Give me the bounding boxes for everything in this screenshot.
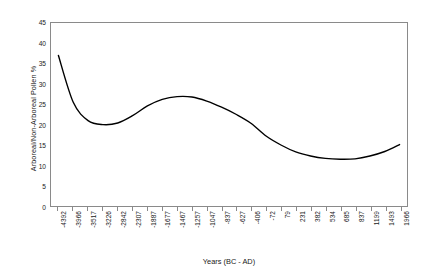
y-axis-tick-label: 5 <box>24 183 46 190</box>
x-axis-tick-label: 1966 <box>403 211 410 226</box>
x-axis-tick-label: -627 <box>239 211 246 224</box>
y-axis-tick-label: 45 <box>24 19 46 26</box>
x-axis-tick-label: 231 <box>299 211 306 222</box>
x-axis-tick-label: 534 <box>329 211 336 222</box>
x-axis-tick-labels: -4392-3966-3517-3226-2842-2307-1887-1677… <box>50 211 408 255</box>
y-axis-tick-labels: 051015202530354045 <box>24 22 46 207</box>
x-axis-tick-label: -4392 <box>60 211 67 228</box>
x-axis-tick-label: -72 <box>269 211 276 221</box>
x-axis-tick-label: -1047 <box>209 211 216 228</box>
y-axis-tick-label: 30 <box>24 80 46 87</box>
x-axis-tick-label: 837 <box>358 211 365 222</box>
x-axis-tick-label: -1257 <box>194 211 201 228</box>
y-axis-tick-label: 15 <box>24 142 46 149</box>
y-axis-tick-label: 35 <box>24 60 46 67</box>
x-axis-tick-label: -3517 <box>90 211 97 228</box>
y-axis-tick-label: 40 <box>24 39 46 46</box>
data-series-line <box>58 56 399 160</box>
x-axis-tick-label: -3226 <box>105 211 112 228</box>
x-axis-tick-label: 79 <box>284 211 291 218</box>
pollen-line-chart: Arboreal/Non-Arboreal Pollen % 051015202… <box>0 0 433 279</box>
x-axis-tick-label: -837 <box>224 211 231 224</box>
x-axis-tick-label: 1199 <box>373 211 380 225</box>
x-axis-tick-label: 1493 <box>388 211 395 226</box>
x-axis-tick-label: 382 <box>314 211 321 222</box>
plot-svg <box>51 23 407 206</box>
y-axis-tick-label: 10 <box>24 162 46 169</box>
x-axis-tick-label: -1887 <box>150 211 157 228</box>
x-axis-tick-label: 685 <box>343 211 350 222</box>
plot-area <box>50 22 408 207</box>
x-axis-tick-label: -406 <box>254 211 261 224</box>
x-axis-title: Years (BC - AD) <box>50 257 408 266</box>
y-axis-tick-label: 20 <box>24 121 46 128</box>
x-axis-tick-label: -2307 <box>135 211 142 228</box>
x-axis-tick-label: -2842 <box>120 211 127 228</box>
x-axis-tick-label: -3966 <box>75 211 82 228</box>
x-axis-tick-label: -1467 <box>179 211 186 228</box>
x-axis-tick-label: -1677 <box>164 211 171 228</box>
y-axis-tick-label: 25 <box>24 101 46 108</box>
y-axis-tick-label: 0 <box>24 204 46 211</box>
